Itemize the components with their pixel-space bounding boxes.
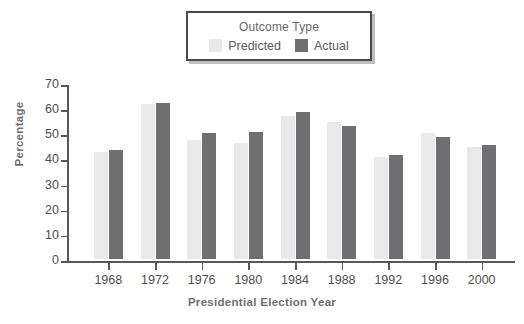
bar-actual-1972 — [156, 103, 170, 259]
bar-predicted-1996 — [421, 133, 435, 259]
bar-predicted-1968 — [94, 152, 108, 259]
y-tick-70 — [61, 85, 67, 87]
x-tick-1980 — [248, 263, 250, 270]
bar-predicted-2000 — [467, 147, 481, 259]
chart-legend: Outcome Type Predicted Actual — [186, 11, 372, 61]
bar-predicted-1988 — [327, 122, 341, 259]
x-tick-1976 — [202, 263, 204, 270]
y-tick-40 — [61, 160, 67, 162]
bar-actual-1976 — [202, 133, 216, 259]
bar-actual-1984 — [296, 112, 310, 259]
y-tick-label-20: 20 — [19, 204, 59, 217]
legend-swatch-predicted-icon — [209, 39, 222, 52]
bar-predicted-1980 — [234, 143, 248, 259]
legend-entries: Predicted Actual — [209, 39, 349, 53]
y-tick-label-10: 10 — [19, 229, 59, 242]
plot-area: 010203040506070 196819721976198019841988… — [67, 85, 515, 261]
y-tick-30 — [61, 186, 67, 188]
bar-actual-1996 — [436, 137, 450, 259]
legend-title: Outcome Type — [239, 20, 319, 34]
bar-actual-1980 — [249, 132, 263, 259]
y-tick-label-30: 30 — [19, 179, 59, 192]
x-axis-line — [67, 261, 515, 263]
bar-actual-1968 — [109, 150, 123, 259]
legend-label-actual: Actual — [314, 39, 349, 53]
bar-actual-1992 — [389, 155, 403, 259]
x-tick-1984 — [295, 263, 297, 270]
bar-predicted-1972 — [141, 104, 155, 259]
bar-actual-1988 — [342, 126, 356, 259]
legend-entry-predicted: Predicted — [209, 39, 281, 53]
y-tick-20 — [61, 211, 67, 213]
x-tick-label-2000: 2000 — [452, 273, 512, 287]
x-tick-1988 — [342, 263, 344, 270]
x-tick-1972 — [155, 263, 157, 270]
y-axis-line — [67, 85, 69, 262]
y-tick-label-50: 50 — [19, 128, 59, 141]
y-tick-label-40: 40 — [19, 153, 59, 166]
legend-entry-actual: Actual — [295, 39, 349, 53]
x-tick-2000 — [482, 263, 484, 270]
y-tick-label-70: 70 — [19, 78, 59, 91]
bar-predicted-1992 — [374, 157, 388, 259]
x-tick-1996 — [435, 263, 437, 270]
y-tick-0 — [61, 261, 67, 263]
y-tick-label-60: 60 — [19, 103, 59, 116]
x-axis-title: Presidential Election Year — [0, 296, 524, 308]
y-tick-60 — [61, 110, 67, 112]
bar-predicted-1976 — [187, 140, 201, 259]
x-tick-1968 — [108, 263, 110, 270]
x-tick-1992 — [388, 263, 390, 270]
y-tick-50 — [61, 135, 67, 137]
bar-actual-2000 — [482, 145, 496, 259]
y-tick-10 — [61, 236, 67, 238]
bar-predicted-1984 — [281, 116, 295, 259]
y-tick-label-0: 0 — [19, 254, 59, 267]
bar-chart: Outcome Type Predicted Actual Percentage… — [0, 0, 524, 324]
legend-swatch-actual-icon — [295, 39, 308, 52]
legend-label-predicted: Predicted — [228, 39, 281, 53]
